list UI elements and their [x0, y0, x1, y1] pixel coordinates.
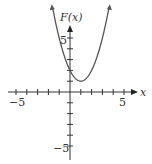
y-axis-arrow-icon	[67, 25, 73, 32]
curve-left-arrow-icon	[50, 4, 55, 10]
x-tick-label-5: 5	[119, 96, 126, 109]
x-tick-label-neg5: −5	[9, 96, 25, 109]
x-axis-arrow-icon	[131, 89, 138, 95]
function-graph: F(x) x −5 5 5 −5	[0, 0, 152, 164]
y-tick-label-5: 5	[60, 34, 67, 47]
y-tick-label-neg5: −5	[53, 142, 69, 155]
curve-right-arrow-icon	[107, 4, 112, 10]
y-axis-label: F(x)	[59, 11, 82, 24]
x-axis-label: x	[140, 86, 147, 99]
